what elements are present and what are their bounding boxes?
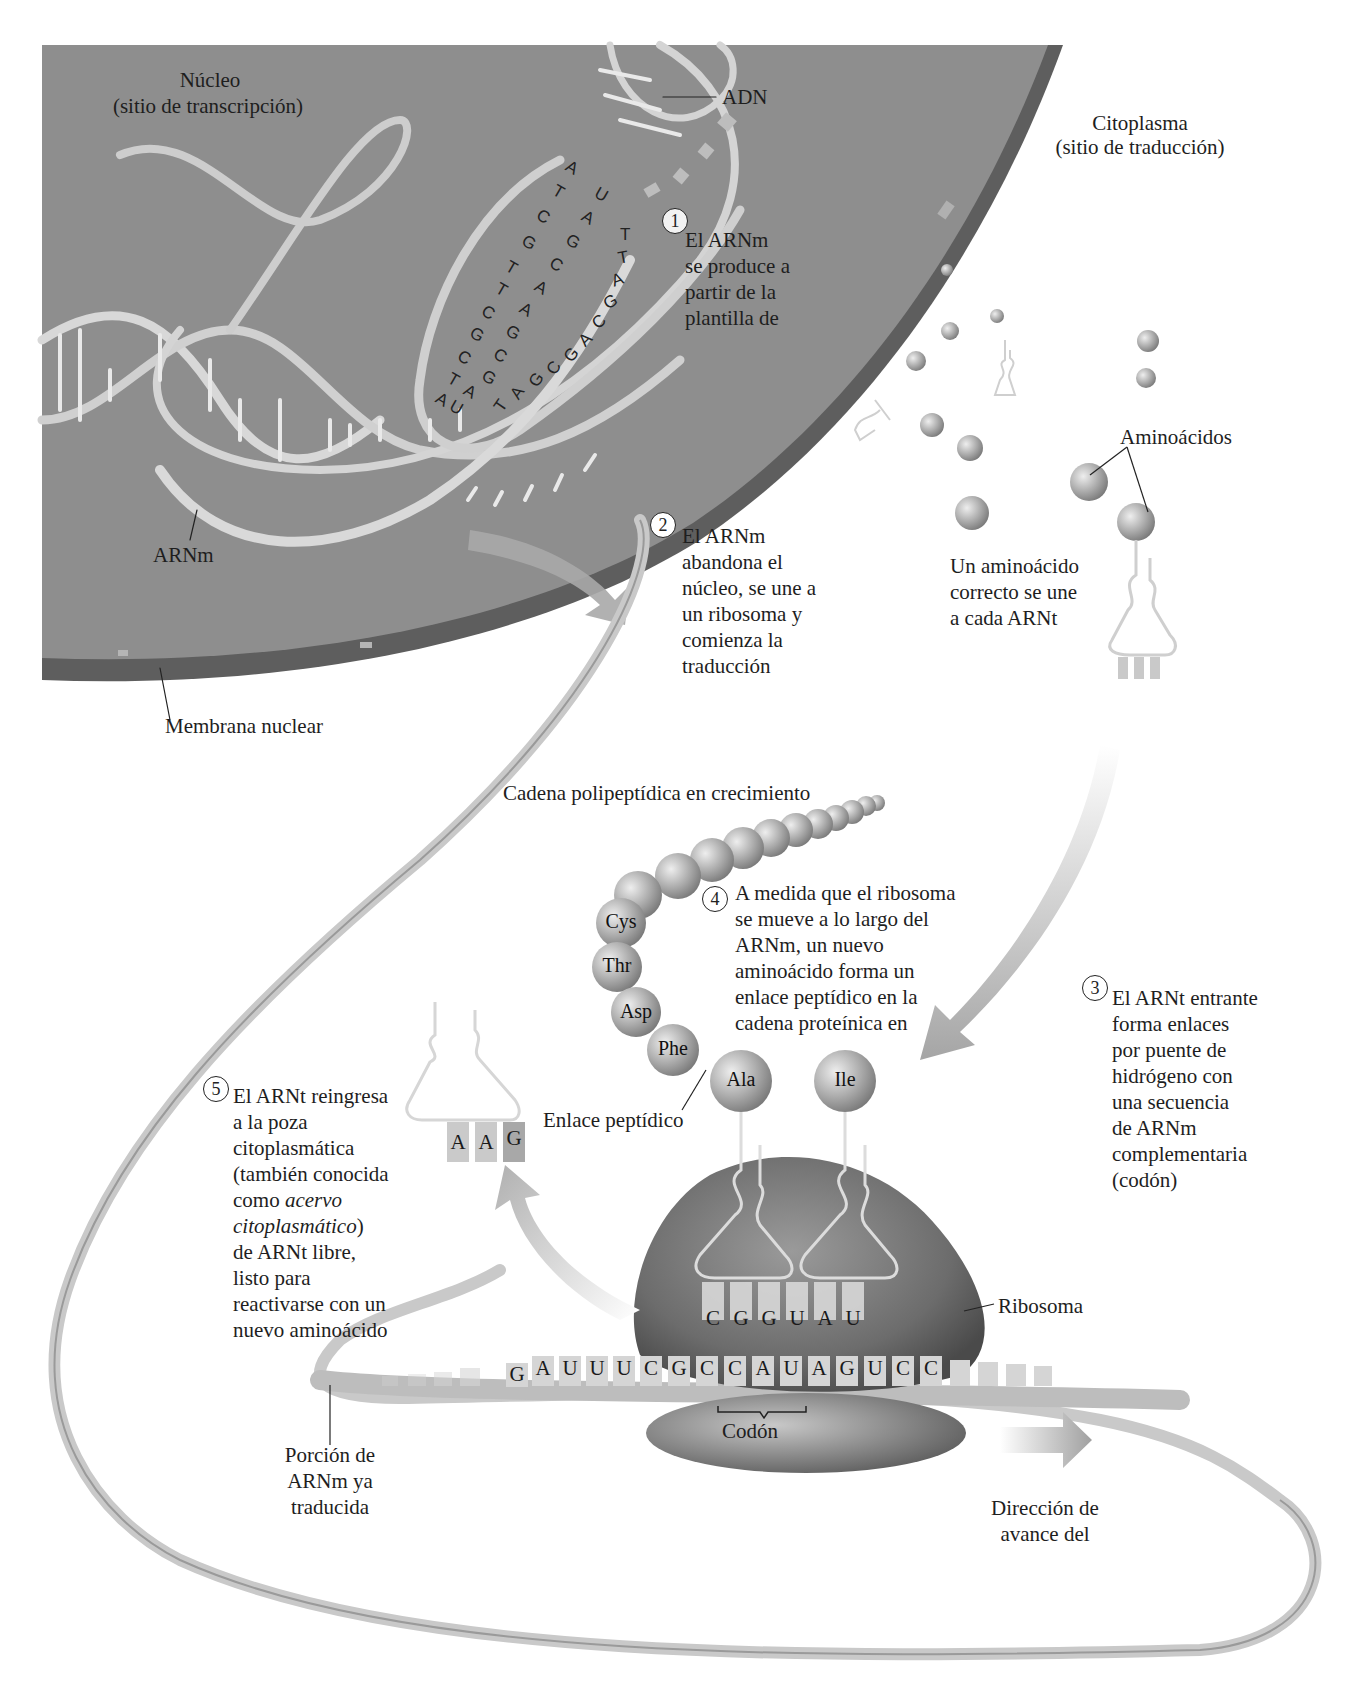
step-4-text: A medida que el ribosoma se mueve a lo l… [735,880,955,1036]
dna-label: ADN [722,84,768,110]
free-trna-leaving [407,1002,519,1120]
nucleus-subtitle: (sitio de transcripción) [58,93,358,119]
step-2-number: 2 [650,512,676,538]
nucleus-title: Núcleo [85,67,335,93]
peptide-bond-label: Enlace peptídico [543,1107,684,1133]
amino-acid-cys: Cys [591,910,651,933]
direction-label: Dirección de avance del [965,1495,1125,1547]
free-anticodon-3: G [502,1126,526,1151]
mrna-label: ARNm [153,542,214,568]
amino-acid-thr: Thr [587,954,647,977]
step-3-text: El ARNt entrante forma enlaces por puent… [1112,985,1258,1193]
amino-acid-ala: Ala [711,1068,771,1091]
amino-acid-asp: Asp [606,1000,666,1023]
cytoplasm-title: Citoplasma [1040,110,1240,136]
amino-acid-ile: Ile [815,1068,875,1091]
step-4-number: 4 [702,886,728,912]
charged-trna [1110,540,1176,655]
step-2-text: El ARNm abandona el núcleo, se une a un … [682,523,816,679]
attach-caption: Un aminoácido correcto se une a cada ARN… [950,553,1079,631]
cytoplasm-subtitle: (sitio de traducción) [1040,134,1240,160]
codon-label: Codón [722,1418,778,1444]
step-5-text: El ARNt reingresa a la poza citoplasmáti… [233,1083,389,1343]
return-arrow-icon [495,1165,640,1320]
step-3-number: 3 [1082,975,1108,1001]
diagram-artwork [0,0,1351,1695]
free-amino-acids [906,264,1159,541]
free-anticodon-2: A [474,1130,498,1155]
membrane-label: Membrana nuclear [165,713,323,739]
amino-acid-phe: Phe [643,1037,703,1060]
translation-diagram: Núcleo (sitio de transcripción) ADN ARNm… [0,0,1351,1695]
ribosome-label: Ribosoma [998,1293,1083,1319]
free-anticodon-1: A [446,1130,470,1155]
amino-acids-label: Aminoácidos [1120,424,1232,450]
ribosome [634,1157,985,1473]
polypeptide-chain-label: Cadena polipeptídica en crecimiento [503,780,810,806]
step-5-number: 5 [203,1076,229,1102]
step-1-text: El ARNm se produce a partir de la planti… [685,227,790,331]
translated-portion-label: Porción de ARNm ya traducida [260,1442,400,1520]
